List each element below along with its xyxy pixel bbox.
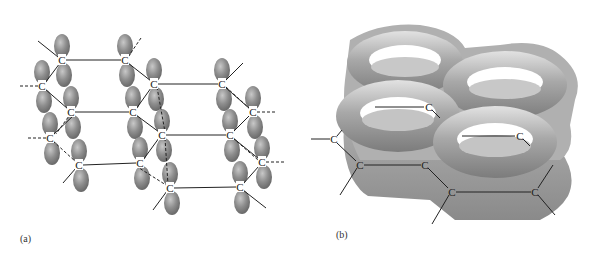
carbon-atom-label: C xyxy=(67,106,74,118)
carbon-atom-label: C xyxy=(249,106,256,118)
p-orbital-lower-lobe xyxy=(247,115,263,139)
carbon-atom-label: C xyxy=(46,132,53,144)
carbon-atom-label: C xyxy=(121,54,128,66)
p-orbital-lower-lobe xyxy=(164,191,180,215)
p-orbital-lower-lobe xyxy=(73,168,89,192)
panel-b: CCCCCCC xyxy=(311,25,578,224)
torus-bottom-right xyxy=(433,106,557,178)
p-orbital-lower-lobe xyxy=(256,165,272,189)
carbon-atom-label: C xyxy=(75,159,82,171)
carbon-atom-label: C xyxy=(136,157,143,169)
carbon-atom-label: C xyxy=(218,78,225,90)
carbon-atom-label: C xyxy=(330,133,337,145)
carbon-atom-label: C xyxy=(421,159,428,171)
orbital-diagram: CCCCCCCCCCCCCCCC xyxy=(0,0,599,253)
carbon-atom-label: C xyxy=(166,182,173,194)
carbon-atom-label: C xyxy=(425,101,432,113)
panel-a: CCCCCCCCCCCCCCCC xyxy=(20,34,285,215)
carbon-atom-label: C xyxy=(236,181,243,193)
carbon-atom-label: C xyxy=(129,106,136,118)
p-orbital-lower-lobe xyxy=(148,87,164,111)
carbon-atom-label: C xyxy=(258,156,265,168)
carbon-atom-label: C xyxy=(158,129,165,141)
carbon-atom-label: C xyxy=(58,54,65,66)
carbon-atom-label: C xyxy=(448,186,455,198)
panel-a-label: (a) xyxy=(20,233,31,244)
carbon-atom-label: C xyxy=(38,80,45,92)
carbon-atom-label: C xyxy=(226,129,233,141)
panel-b-label: (b) xyxy=(336,229,348,240)
carbon-atom-label: C xyxy=(150,78,157,90)
carbon-atom-label: C xyxy=(356,159,363,171)
carbon-atom-label: C xyxy=(531,186,538,198)
p-orbital-lower-lobe xyxy=(56,63,72,87)
p-orbital-lower-lobe xyxy=(156,138,172,162)
carbon-atom-label: C xyxy=(516,130,523,142)
